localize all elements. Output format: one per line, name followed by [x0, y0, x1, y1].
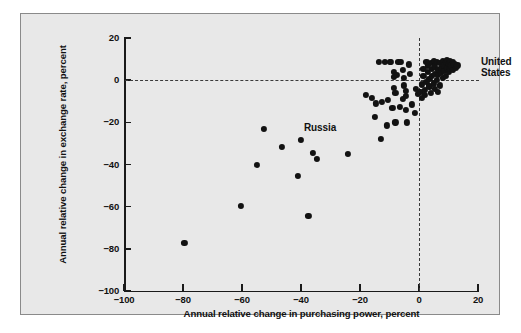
scatter-point — [254, 161, 260, 167]
x-tick-mark — [241, 284, 242, 291]
y-tick-mark — [124, 248, 131, 249]
scatter-point — [298, 137, 304, 143]
scatter-point — [404, 119, 410, 125]
x-tick-mark — [359, 284, 360, 291]
x-tick-label: −80 — [175, 294, 191, 305]
scatter-point — [372, 114, 378, 120]
scatter-point — [411, 110, 417, 116]
scatter-point — [409, 101, 415, 107]
x-tick-mark — [182, 284, 183, 291]
scatter-point — [279, 143, 285, 149]
scatter-point — [419, 95, 425, 101]
y-tick-label: −80 — [81, 243, 119, 254]
y-tick-mark — [124, 164, 131, 165]
x-tick-label: −100 — [114, 294, 135, 305]
y-tick-label: 0 — [81, 74, 119, 85]
scatter-point — [392, 119, 398, 125]
scatter-point — [400, 67, 406, 73]
scatter-point — [403, 93, 409, 99]
scatter-point — [406, 61, 412, 67]
y-tick-mark — [124, 122, 131, 123]
scatter-point — [237, 203, 243, 209]
x-tick-label: 0 — [416, 294, 421, 305]
scatter-point — [383, 122, 389, 128]
scatter-point — [310, 150, 316, 156]
scatter-point — [305, 213, 311, 219]
x-tick-mark — [123, 284, 124, 291]
scatter-point — [454, 62, 460, 68]
x-tick-label: 20 — [473, 294, 483, 305]
scatter-point — [435, 89, 441, 95]
x-tick-label: −40 — [293, 294, 309, 305]
scatter-point — [392, 90, 398, 96]
scatter-point — [398, 59, 404, 65]
scatter-point — [385, 97, 391, 103]
y-tick-mark — [124, 37, 131, 38]
y-axis-title: Annual relative change in exchange rate,… — [57, 35, 68, 275]
scatter-point — [407, 71, 413, 77]
scatter-point — [345, 151, 351, 157]
scatter-point — [261, 126, 267, 132]
x-tick-label: −60 — [234, 294, 250, 305]
scatter-point — [378, 136, 384, 142]
y-tick-mark — [124, 206, 131, 207]
y-tick-mark — [124, 290, 131, 291]
annotation-united-states: United States — [481, 56, 512, 78]
x-axis-title: Annual relative change in purchasing pow… — [124, 308, 479, 319]
chart-panel: 200−20−40−60−80−100 −100−80−60−40−20020 … — [20, 13, 500, 315]
x-tick-mark — [300, 284, 301, 291]
y-tick-label: −20 — [81, 116, 119, 127]
y-tick-label: −60 — [81, 201, 119, 212]
scatter-point — [389, 104, 395, 110]
scatter-point — [181, 239, 187, 245]
x-tick-label: −20 — [352, 294, 368, 305]
scatter-point — [295, 173, 301, 179]
scatter-point — [388, 59, 394, 65]
scatter-point — [314, 156, 320, 162]
y-tick-label: 20 — [81, 32, 119, 43]
figure-container: 200−20−40−60−80−100 −100−80−60−40−20020 … — [0, 0, 521, 333]
scatter-point — [403, 107, 409, 113]
annotation-russia: Russia — [304, 122, 336, 133]
scatter-point — [394, 72, 400, 78]
x-tick-mark — [477, 284, 478, 291]
y-tick-label: −40 — [81, 159, 119, 170]
